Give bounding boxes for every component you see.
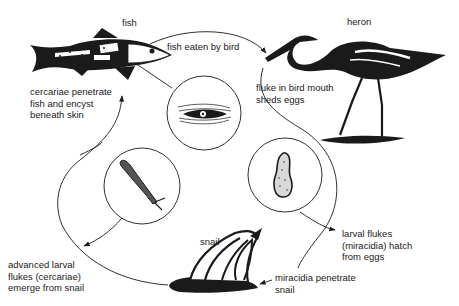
fish-illustration (30, 28, 172, 80)
arrow-miracidia-to-snail (260, 280, 272, 284)
stage-miracidia-hatch: larval flukes (miracidia) hatch from egg… (342, 228, 412, 263)
stage-cercariae-emerge: advanced larval flukes (cercariae) emerg… (8, 259, 84, 294)
label-snail: snail (200, 236, 220, 248)
inset-encysted-fluke (167, 76, 241, 150)
stage-bird-mouth: fluke in bird mouth sheds eggs (256, 82, 334, 105)
label-heron: heron (347, 16, 371, 28)
stage-miracidia-penetrate: miracidia penetrate snail (275, 272, 356, 295)
stage-fish-eaten: fish eaten by bird (167, 41, 239, 53)
arrow-miracidia-inset (300, 212, 335, 230)
arrow-cercaria-inset (84, 218, 122, 246)
stage-cercariae-penetrate: cercariae penetrate fish and encyst bene… (30, 86, 112, 121)
pointer-fish-to-cyst (135, 63, 172, 88)
life-cycle-diagram: fish heron snail fish eaten by bird fluk… (0, 0, 459, 306)
label-fish: fish (122, 17, 137, 29)
inset-cercaria (104, 148, 180, 224)
inset-miracidium (248, 138, 322, 212)
